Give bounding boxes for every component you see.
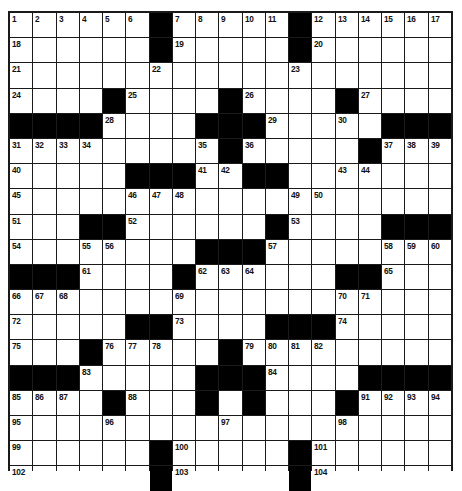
- grid-cell[interactable]: 2: [33, 13, 55, 37]
- grid-cell[interactable]: 5: [103, 13, 125, 37]
- grid-cell[interactable]: 97: [219, 416, 241, 440]
- grid-cell[interactable]: [173, 139, 195, 163]
- grid-cell[interactable]: 9: [219, 13, 241, 37]
- grid-cell[interactable]: 49: [289, 189, 311, 213]
- grid-cell[interactable]: 74: [336, 315, 358, 339]
- grid-cell[interactable]: [196, 441, 218, 465]
- grid-cell[interactable]: 48: [173, 189, 195, 213]
- grid-cell[interactable]: 79: [243, 340, 265, 364]
- grid-cell[interactable]: [405, 89, 427, 113]
- grid-cell[interactable]: [359, 215, 381, 239]
- grid-cell[interactable]: [336, 240, 358, 264]
- grid-cell[interactable]: 66: [10, 290, 32, 314]
- grid-cell[interactable]: [243, 441, 265, 465]
- grid-cell[interactable]: 52: [126, 215, 148, 239]
- grid-cell[interactable]: 88: [126, 391, 148, 415]
- grid-cell[interactable]: [57, 164, 79, 188]
- grid-cell[interactable]: 59: [405, 240, 427, 264]
- grid-cell[interactable]: [150, 215, 172, 239]
- grid-cell[interactable]: 44: [359, 164, 381, 188]
- grid-cell[interactable]: [359, 189, 381, 213]
- grid-cell[interactable]: 41: [196, 164, 218, 188]
- grid-cell[interactable]: [57, 89, 79, 113]
- grid-cell[interactable]: [150, 139, 172, 163]
- grid-cell[interactable]: 93: [405, 391, 427, 415]
- grid-cell[interactable]: [359, 340, 381, 364]
- grid-cell[interactable]: [243, 215, 265, 239]
- grid-cell[interactable]: [266, 139, 288, 163]
- grid-cell[interactable]: 20: [312, 38, 334, 62]
- grid-cell[interactable]: 34: [80, 139, 102, 163]
- grid-cell[interactable]: [405, 164, 427, 188]
- grid-cell[interactable]: [382, 340, 404, 364]
- grid-cell[interactable]: [429, 416, 451, 440]
- grid-cell[interactable]: [80, 89, 102, 113]
- grid-cell[interactable]: [429, 315, 451, 339]
- grid-cell[interactable]: [359, 416, 381, 440]
- grid-cell[interactable]: 68: [57, 290, 79, 314]
- grid-cell[interactable]: [103, 38, 125, 62]
- grid-cell[interactable]: [382, 164, 404, 188]
- grid-cell[interactable]: [80, 466, 102, 490]
- grid-cell[interactable]: [33, 340, 55, 364]
- grid-cell[interactable]: [57, 189, 79, 213]
- grid-cell[interactable]: 92: [382, 391, 404, 415]
- grid-cell[interactable]: 13: [336, 13, 358, 37]
- grid-cell[interactable]: 11: [266, 13, 288, 37]
- grid-cell[interactable]: [312, 89, 334, 113]
- grid-cell[interactable]: [126, 466, 148, 490]
- grid-cell[interactable]: [429, 265, 451, 289]
- grid-cell[interactable]: [103, 441, 125, 465]
- grid-cell[interactable]: [289, 391, 311, 415]
- grid-cell[interactable]: 103: [173, 466, 195, 490]
- grid-cell[interactable]: 78: [150, 340, 172, 364]
- grid-cell[interactable]: [336, 215, 358, 239]
- grid-cell[interactable]: [429, 89, 451, 113]
- grid-cell[interactable]: [103, 466, 125, 490]
- grid-cell[interactable]: 55: [80, 240, 102, 264]
- grid-cell[interactable]: [405, 265, 427, 289]
- grid-cell[interactable]: [196, 315, 218, 339]
- grid-cell[interactable]: [359, 38, 381, 62]
- grid-cell[interactable]: [266, 391, 288, 415]
- grid-cell[interactable]: [150, 240, 172, 264]
- grid-cell[interactable]: [359, 441, 381, 465]
- grid-cell[interactable]: [429, 340, 451, 364]
- grid-cell[interactable]: 65: [382, 265, 404, 289]
- grid-cell[interactable]: 76: [103, 340, 125, 364]
- grid-cell[interactable]: [336, 466, 358, 490]
- grid-cell[interactable]: [382, 290, 404, 314]
- grid-cell[interactable]: 23: [289, 63, 311, 87]
- grid-cell[interactable]: [382, 38, 404, 62]
- grid-cell[interactable]: [103, 265, 125, 289]
- grid-cell[interactable]: [173, 366, 195, 390]
- grid-cell[interactable]: [33, 215, 55, 239]
- grid-cell[interactable]: [196, 290, 218, 314]
- grid-cell[interactable]: 57: [266, 240, 288, 264]
- grid-cell[interactable]: [405, 189, 427, 213]
- grid-cell[interactable]: [266, 290, 288, 314]
- grid-cell[interactable]: [57, 215, 79, 239]
- grid-cell[interactable]: 75: [10, 340, 32, 364]
- grid-cell[interactable]: 94: [429, 391, 451, 415]
- grid-cell[interactable]: 18: [10, 38, 32, 62]
- grid-cell[interactable]: 53: [289, 215, 311, 239]
- grid-cell[interactable]: [266, 441, 288, 465]
- grid-cell[interactable]: [57, 240, 79, 264]
- grid-cell[interactable]: [405, 340, 427, 364]
- grid-cell[interactable]: [196, 189, 218, 213]
- grid-cell[interactable]: [382, 441, 404, 465]
- grid-cell[interactable]: [405, 38, 427, 62]
- grid-cell[interactable]: [289, 290, 311, 314]
- grid-cell[interactable]: [33, 240, 55, 264]
- grid-cell[interactable]: [57, 63, 79, 87]
- grid-cell[interactable]: 98: [336, 416, 358, 440]
- grid-cell[interactable]: 26: [243, 89, 265, 113]
- grid-cell[interactable]: 82: [312, 340, 334, 364]
- grid-cell[interactable]: [80, 290, 102, 314]
- grid-cell[interactable]: 43: [336, 164, 358, 188]
- grid-cell[interactable]: 33: [57, 139, 79, 163]
- grid-cell[interactable]: 35: [196, 139, 218, 163]
- grid-cell[interactable]: [126, 290, 148, 314]
- grid-cell[interactable]: [243, 416, 265, 440]
